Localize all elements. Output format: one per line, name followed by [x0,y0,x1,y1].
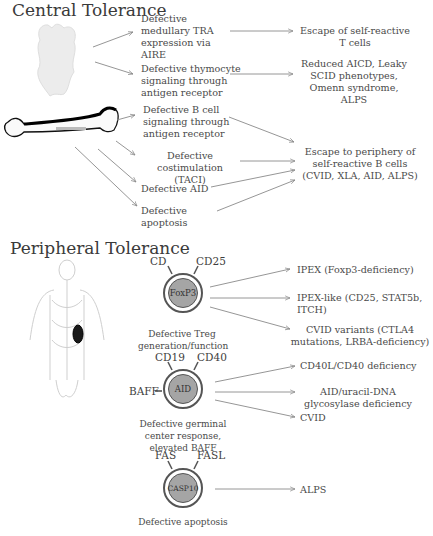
receptor-cd25: CD25 [196,255,226,267]
treg-outcome-ipex: IPEX (Foxp3-deficiency) [297,264,427,276]
gc-outcome-cvid: CVID [300,412,360,424]
lymphatic-body-illustration [30,260,104,397]
apoptosis-cell: CASP10 [163,468,203,508]
cause-aid: Defective AID [141,183,221,195]
thymus-illustration [38,24,76,96]
gc-outcome-aid-ung: AID/uracil-DNA glycosylase deficiency [298,386,418,410]
gc-outcome-cd40l: CD40L/CD40 deficiency [300,360,430,372]
cause-costimulation: Defective costimulation (TACI) [140,150,240,186]
treg-outcome-ipex-like: IPEX-like (CD25, STAT5b, ITCH) [297,292,433,316]
apop-outcome-alps: ALPS [300,484,340,496]
germinal-center-cell: AID [163,369,203,409]
apop-caption: Defective apoptosis [138,516,228,528]
treg-cell: FoxP3 [163,273,203,313]
receptor-cd19: CD19 [155,351,185,363]
cause-apoptosis: Defective apoptosis [141,205,236,229]
cause-aire: Defective medullary TRA expression via A… [141,13,236,61]
cause-thymocyte: Defective thymocyte signaling through an… [141,63,241,99]
casp10-core: CASP10 [168,473,198,503]
treg-caption: Defective Treg generation/function [138,328,226,352]
receptor-fas: FAS [155,449,176,461]
receptor-cd: CD [150,255,166,267]
outcome-aicd: Reduced AICD, Leaky SCID phenotypes, Ome… [298,58,410,106]
receptor-fasl: FASL [197,449,225,461]
cause-b-cell-signaling: Defective B cell signaling through antig… [143,104,238,140]
foxp3-core: FoxP3 [168,278,198,308]
aid-core: AID [168,374,198,404]
outcome-t-cells: Escape of self-reactive T cells [300,25,410,49]
treg-outcome-cvid-variants: CVID variants (CTLA4 mutations, LRBA-def… [290,324,430,348]
receptor-cd40: CD40 [197,351,227,363]
femur-illustration [5,108,118,137]
receptor-baff: BAFF [129,385,159,397]
outcome-b-cells: Escape to periphery of self-reactive B c… [300,146,420,182]
